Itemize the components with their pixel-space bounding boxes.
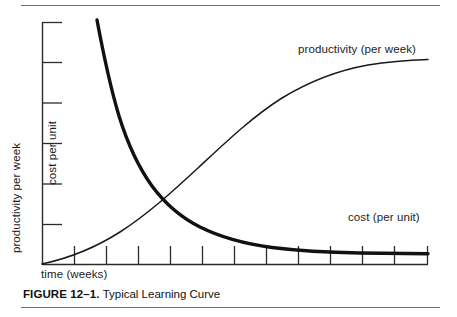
productivity-curve (42, 60, 428, 265)
figure-caption: FIGURE 12–1. Typical Learning Curve (23, 288, 220, 300)
productivity-curve-label: productivity (per week) (298, 43, 416, 55)
cost-curve-label: cost (per unit) (348, 211, 420, 223)
x-axis-ticks (75, 246, 428, 265)
x-axis-label-time: time (weeks) (41, 268, 107, 280)
y-axis-label-productivity: productivity per week (10, 138, 22, 258)
figure-container: productivity per week cost per unit time… (0, 0, 457, 317)
figure-caption-title: Typical Learning Curve (103, 288, 221, 300)
figure-caption-number: FIGURE 12–1. (23, 288, 100, 300)
bottom-horizontal-rule (21, 307, 440, 308)
y-axis-label-cost: cost per unit (46, 113, 58, 193)
